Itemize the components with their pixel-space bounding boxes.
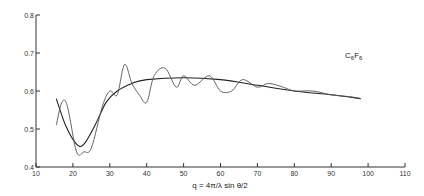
- x-tick-label: 20: [69, 170, 77, 177]
- x-tick-label: 50: [180, 170, 188, 177]
- x-tick-label: 30: [106, 170, 114, 177]
- x-tick-label: 10: [32, 170, 40, 177]
- y-tick-label: 0.4: [24, 164, 34, 171]
- x-tick-label: 100: [362, 170, 374, 177]
- x-tick-label: 80: [290, 170, 298, 177]
- x-tick-label: 70: [254, 170, 262, 177]
- y-tick-label: 0.7: [24, 50, 34, 57]
- y-tick-label: 0.8: [24, 12, 34, 19]
- x-tick-label: 110: [399, 170, 410, 177]
- x-tick-label: 90: [327, 170, 335, 177]
- x-axis-label: q = 4π/λ sin θ/2: [192, 181, 248, 190]
- chart: 1020304050607080901001100.40.50.60.70.8C…: [0, 0, 424, 196]
- y-tick-label: 0.5: [24, 126, 34, 133]
- compound-label: C6F6: [345, 51, 363, 61]
- y-tick-label: 0.6: [24, 88, 34, 95]
- x-tick-label: 60: [217, 170, 225, 177]
- x-tick-label: 40: [143, 170, 151, 177]
- series-line-0: [56, 78, 360, 147]
